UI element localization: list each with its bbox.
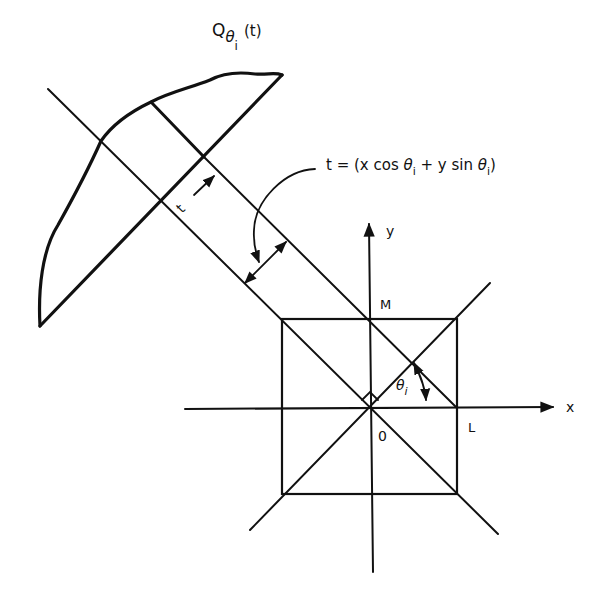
width-arrow — [245, 242, 286, 283]
x-axis — [185, 407, 553, 409]
t-arrow — [194, 176, 214, 195]
x-axis-label: x — [566, 399, 574, 415]
y-axis-label: y — [386, 223, 394, 239]
point-m-label: M — [380, 297, 391, 312]
point-l-label: L — [468, 420, 476, 435]
theta-angle-arrow — [414, 363, 426, 400]
origin-label: 0 — [378, 428, 387, 444]
equation-label: t = (x cos θi + y sin θi) — [326, 156, 496, 178]
y-axis — [369, 224, 373, 572]
ray-upper — [204, 157, 457, 408]
theta-label: θi — [396, 377, 408, 398]
ray-segment-upper — [151, 102, 204, 157]
projection-diagram: Qθi(t) t = (x cos θi + y sin θi) t y x M… — [0, 0, 602, 609]
projection-label: Qθi(t) — [212, 20, 262, 53]
